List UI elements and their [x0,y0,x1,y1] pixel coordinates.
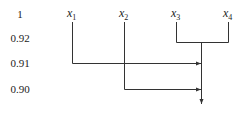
dendrogram-lines [0,0,244,115]
branch-x2 [125,22,202,90]
